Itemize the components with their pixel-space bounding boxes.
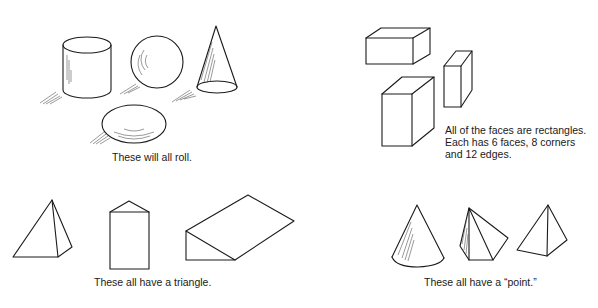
caption-rectangles-line-3: and 12 edges. [445,148,512,161]
caption-rectangles-line-2: Each has 6 faces, 8 corners [445,136,575,149]
caption-triangle: These all have a triangle. [94,276,211,289]
wedge-shape [186,195,294,260]
sphere-shape [120,36,183,94]
ellipsoid-shape [90,105,166,144]
point-cone-shape [392,205,444,267]
caption-point: These all have a “point.” [424,276,537,289]
point-square-pyramid-shape [517,205,567,256]
panel-triangle [13,195,294,269]
thin-box-shape [444,51,472,107]
triangular-prism-shape [110,201,149,269]
caption-roll: These will all roll. [112,151,192,164]
cone-shape [172,26,237,102]
flat-box-shape [366,28,430,64]
pentagonal-pyramid-shape [460,208,508,260]
square-pyramid-shape [13,200,72,257]
cylinder-shape [40,37,111,104]
panel-roll [40,26,237,144]
large-box-shape [382,77,434,146]
panel-point [392,205,567,267]
caption-rectangles-line-1: All of the faces are rectangles. [445,124,586,137]
